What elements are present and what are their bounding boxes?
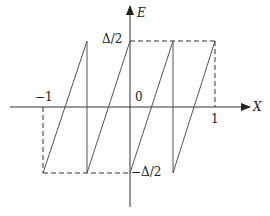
sawtooth-diagram: E X Δ/2 −1 0 1 −Δ/2 <box>0 0 270 216</box>
tick-label-zero: 0 <box>135 91 143 103</box>
diagram-svg <box>0 0 270 216</box>
tick-label-neg-one: −1 <box>35 91 53 103</box>
y-axis-label: E <box>137 7 146 19</box>
x-axis-label: X <box>253 101 262 113</box>
tick-label-neg-delta-half: −Δ/2 <box>131 166 161 178</box>
tick-label-delta-half: Δ/2 <box>102 33 122 45</box>
tick-label-one: 1 <box>211 113 219 125</box>
